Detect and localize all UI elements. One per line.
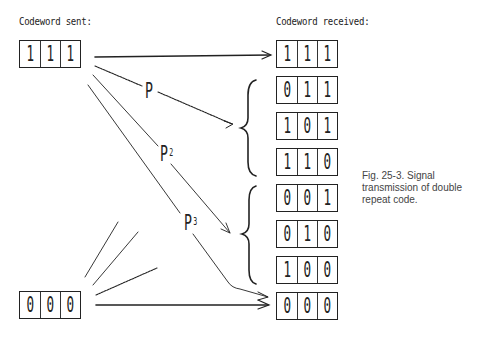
probability-label-p3: P3: [184, 212, 197, 234]
label-exponent: 2: [169, 146, 173, 159]
arrow-p3: [88, 85, 268, 300]
label-exponent: 3: [193, 215, 197, 228]
label-base: P: [160, 141, 168, 166]
probability-label-p2: P2: [160, 143, 173, 165]
probability-label-p: P: [145, 80, 153, 102]
arrow-direct-000: [96, 300, 269, 309]
arrow-p1: [95, 66, 233, 128]
brace-double-error: [242, 186, 256, 284]
brace-single-error: [241, 80, 256, 176]
figure-caption: Fig. 25-3. Signal transmission of double…: [362, 170, 485, 206]
partial-lines-000: [85, 222, 157, 295]
label-base: P: [145, 78, 153, 103]
arrow-direct-111: [95, 51, 271, 59]
label-base: P: [184, 210, 192, 235]
